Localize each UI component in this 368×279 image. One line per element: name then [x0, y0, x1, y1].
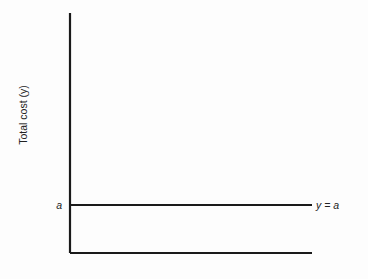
series-layer: y = a [70, 199, 339, 211]
chart: y = a a Total cost (y) [0, 0, 368, 279]
y-axis-label: Total cost (y) [17, 85, 29, 145]
y-tick-label-0: a [56, 199, 62, 211]
series-label-0: y = a [315, 199, 339, 211]
tick-layer: a [56, 199, 62, 211]
